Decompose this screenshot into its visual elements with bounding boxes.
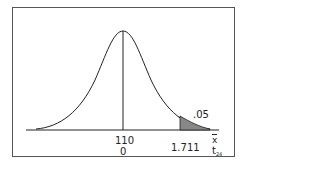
df-subscript: 24	[216, 151, 222, 157]
xbar-axis-label: x	[212, 135, 217, 145]
alpha-label: .05	[193, 110, 209, 120]
t-axis-label: t24	[212, 146, 222, 157]
t-critical-label: 1.711	[171, 143, 200, 153]
mean-label: 110	[115, 136, 134, 146]
t-center-label: 0	[120, 147, 126, 157]
